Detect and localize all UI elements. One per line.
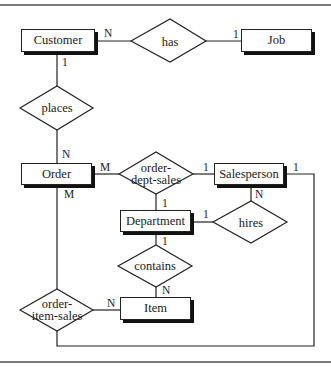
relationship-places-label: places [41, 102, 72, 114]
entity-order: Order [21, 163, 92, 185]
relationship-has-label: has [162, 36, 179, 48]
entity-label: Customer [34, 33, 83, 48]
relationship-order-dept-sales-label: order- dept-sales [131, 162, 181, 186]
entity-label: Job [268, 33, 285, 48]
entity-label: Salesperson [219, 167, 279, 182]
relationship-order-item-sales-label: order- item-sales [32, 298, 83, 322]
entity-label: Item [144, 301, 167, 316]
cardinality-salesperson-hires: N [255, 189, 263, 200]
relationship-hires-label: hires [239, 217, 263, 229]
entity-department: Department [120, 210, 191, 232]
cardinality-job-has: 1 [233, 29, 239, 40]
cardinality-order-ods: M [100, 162, 110, 173]
cardinality-order-ois: M [64, 189, 74, 200]
cardinality-customer-has: N [104, 28, 112, 39]
cardinality-department-ods: 1 [162, 198, 168, 209]
cardinality-order-places: N [62, 149, 70, 160]
cardinality-item-ois: N [107, 298, 115, 309]
relationship-label: has [162, 35, 179, 49]
cardinality-department-contains: 1 [162, 236, 168, 247]
relationship-contains-label: contains [134, 260, 176, 272]
entity-salesperson: Salesperson [214, 163, 284, 185]
entity-customer: Customer [21, 29, 95, 52]
relationship-label-line2: dept-sales [131, 174, 181, 186]
relationship-label-line2: item-sales [32, 310, 83, 322]
entity-job: Job [241, 29, 312, 52]
cardinality-salesperson-ods: 1 [203, 162, 209, 173]
entity-label: Department [126, 214, 185, 229]
entity-label: Order [42, 167, 71, 182]
relationship-label: contains [134, 259, 176, 273]
cardinality-customer-places: 1 [62, 57, 68, 68]
relationship-label: hires [239, 216, 263, 230]
cardinality-salesperson-ois: 1 [293, 162, 299, 173]
cardinality-department-hires: 1 [203, 209, 209, 220]
cardinality-item-contains: N [162, 285, 170, 296]
relationship-label: places [41, 101, 72, 115]
entity-item: Item [120, 297, 191, 320]
